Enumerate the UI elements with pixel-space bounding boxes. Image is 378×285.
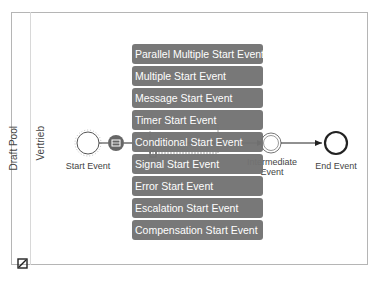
start-event-circle [77, 132, 99, 154]
menu-item-timer-start-event[interactable]: Timer Start Event [132, 110, 263, 130]
menu-item-message-start-event[interactable]: Message Start Event [132, 88, 263, 108]
intermediate-event-inner [264, 136, 279, 151]
menu-item-parallel-multiple-start-event[interactable]: Parallel Multiple Start Event [132, 44, 263, 64]
menu-item-escalation-start-event[interactable]: Escalation Start Event [132, 198, 263, 218]
end-event-circle [325, 132, 347, 154]
menu-item-error-start-event[interactable]: Error Start Event [132, 176, 263, 196]
menu-item-signal-start-event[interactable]: Signal Start Event [132, 154, 263, 174]
end-event-label: End Event [308, 161, 364, 171]
menu-item-multiple-start-event[interactable]: Multiple Start Event [132, 66, 263, 86]
start-event-label: Start Event [60, 161, 116, 171]
replace-context-menu: Parallel Multiple Start Event Multiple S… [132, 44, 263, 242]
menu-item-conditional-start-event[interactable]: Conditional Start Event [132, 132, 263, 152]
menu-item-compensation-start-event[interactable]: Compensation Start Event [132, 220, 263, 240]
